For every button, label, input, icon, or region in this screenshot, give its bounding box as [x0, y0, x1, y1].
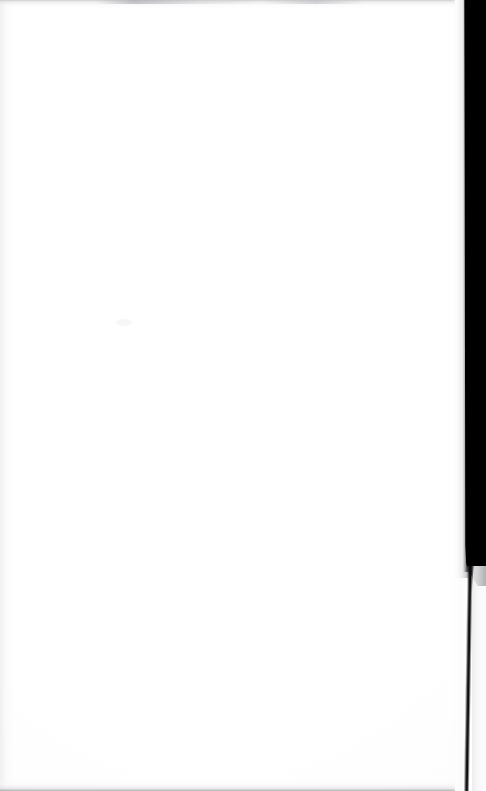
page-bottom-edge-line [0, 779, 455, 791]
page-left-margin-tint [0, 0, 14, 791]
scanner-gutter-void-lip [463, 0, 469, 572]
page-top-edge-fleck [96, 0, 364, 4]
page-paper-surface [0, 0, 455, 791]
page-surface-speck [116, 319, 132, 326]
scanner-backing-strip [472, 566, 486, 791]
scanned-page [0, 0, 486, 791]
